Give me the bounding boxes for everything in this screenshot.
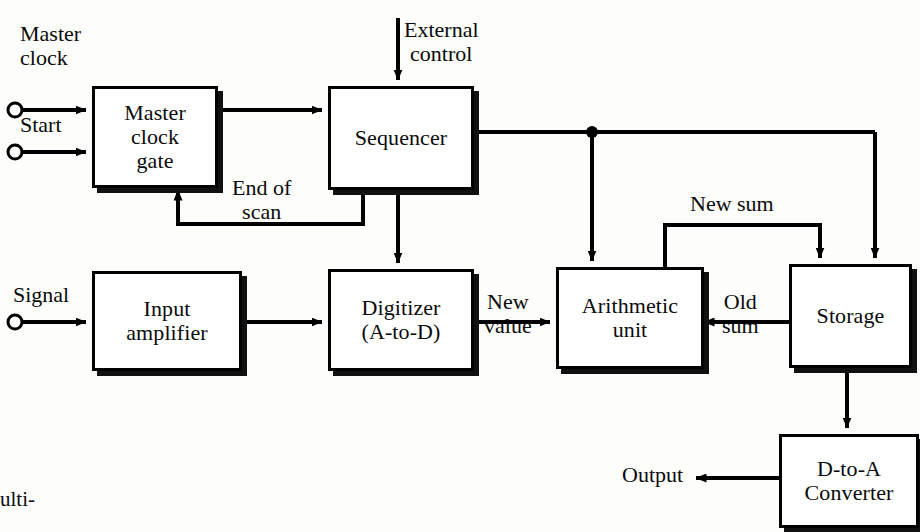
- block-label-storage: Storage: [817, 304, 885, 328]
- block-master-clock-gate[interactable]: Master clock gate: [92, 86, 218, 188]
- block-storage[interactable]: Storage: [789, 264, 912, 368]
- block-label-d-to-a-converter: D-to-A Converter: [805, 457, 894, 505]
- block-label-digitizer: Digitizer (A-to-D): [361, 296, 440, 344]
- terminal-label-signal: Signal: [13, 283, 69, 307]
- wire-new-sum: [665, 225, 820, 267]
- signal-label-new-value: New value: [484, 290, 532, 338]
- block-label-arithmetic-unit: Arithmetic unit: [582, 294, 678, 342]
- signal-label-old-sum: Old sum: [722, 290, 759, 338]
- block-arithmetic-unit[interactable]: Arithmetic unit: [556, 267, 704, 369]
- caption-fragment: ulti-: [0, 487, 35, 512]
- terminal-label-master-clock: Master clock: [20, 22, 81, 70]
- signal-label-new-sum: New sum: [690, 192, 774, 216]
- signal-label-external-control: External control: [404, 18, 479, 66]
- block-label-master-clock-gate: Master clock gate: [124, 101, 186, 172]
- block-d-to-a-converter[interactable]: D-to-A Converter: [779, 434, 919, 528]
- block-label-input-amplifier: Input amplifier: [126, 297, 208, 345]
- start-terminal-dot: [8, 145, 22, 159]
- signal-label-output: Output: [622, 463, 683, 487]
- signal-label-end-of-scan: End of scan: [232, 176, 291, 224]
- block-digitizer[interactable]: Digitizer (A-to-D): [328, 269, 474, 371]
- block-diagram-canvas: Master clock gate Sequencer Input amplif…: [0, 0, 920, 532]
- terminal-label-start: Start: [20, 113, 62, 137]
- block-input-amplifier[interactable]: Input amplifier: [92, 271, 242, 371]
- signal-terminal-dot: [8, 315, 22, 329]
- block-sequencer[interactable]: Sequencer: [328, 86, 474, 190]
- block-label-sequencer: Sequencer: [355, 126, 448, 150]
